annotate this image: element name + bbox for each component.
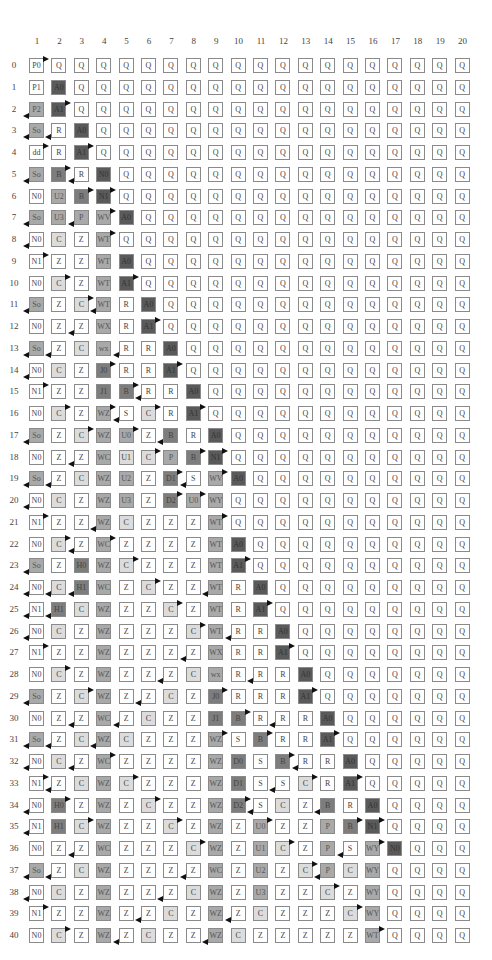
arrow-right-icon: [200, 491, 206, 497]
grid-cell: Q: [320, 515, 335, 530]
arrow-right-icon: [43, 904, 49, 910]
row-header: 26: [4, 626, 24, 636]
grid-cell: Q: [432, 863, 447, 878]
grid-cell: Z: [119, 602, 134, 617]
grid-cell: Q: [387, 580, 402, 595]
grid-cell: WZ: [208, 754, 223, 769]
grid-cell: A1: [51, 102, 66, 117]
grid-cell: Z: [253, 928, 268, 943]
row-header: 18: [4, 452, 24, 462]
arrow-right-icon: [267, 600, 273, 606]
grid-cell: Q: [365, 471, 380, 486]
grid-cell: C: [275, 841, 290, 856]
grid-cell: Q: [410, 341, 425, 356]
grid-cell: Q: [163, 297, 178, 312]
grid-cell: U0: [119, 428, 134, 443]
grid-cell: C: [343, 906, 358, 921]
grid-cell: Z: [119, 624, 134, 639]
arrow-left-icon: [23, 221, 29, 227]
grid-cell: Q: [410, 493, 425, 508]
grid-cell: Q: [387, 58, 402, 73]
grid-cell: WC: [96, 754, 111, 769]
grid-cell: Q: [365, 602, 380, 617]
grid-cell: Z: [186, 645, 201, 660]
grid-cell: C: [141, 798, 156, 813]
grid-cell: Q: [455, 732, 470, 747]
grid-cell: WX: [96, 319, 111, 334]
grid-cell: Q: [96, 145, 111, 160]
grid-cell: Q: [320, 624, 335, 639]
arrow-right-icon: [177, 469, 183, 475]
grid-cell: R: [119, 363, 134, 378]
grid-cell: N0: [29, 276, 44, 291]
grid-cell: Q: [365, 645, 380, 660]
grid-cell: A0: [253, 580, 268, 595]
grid-cell: S: [343, 841, 358, 856]
arrow-right-icon: [133, 556, 139, 562]
grid-cell: Z: [186, 798, 201, 813]
grid-cell: Z: [163, 645, 178, 660]
grid-cell: R: [275, 689, 290, 704]
grid-cell: Q: [231, 276, 246, 291]
row-header: 10: [4, 278, 24, 288]
grid-cell: So: [29, 558, 44, 573]
grid-cell: Q: [298, 471, 313, 486]
grid-cell: Q: [119, 145, 134, 160]
arrow-right-icon: [110, 752, 116, 758]
grid-cell: Z: [141, 558, 156, 573]
grid-cell: Q: [432, 885, 447, 900]
row-header: 40: [4, 930, 24, 940]
arrow-right-icon: [88, 295, 94, 301]
grid-cell: Z: [141, 776, 156, 791]
grid-cell: Q: [455, 819, 470, 834]
grid-cell: Q: [387, 123, 402, 138]
grid-cell: Q: [410, 189, 425, 204]
grid-cell: R: [320, 776, 335, 791]
grid-cell: WZ: [96, 776, 111, 791]
grid-cell: Q: [298, 450, 313, 465]
grid-cell: Q: [253, 319, 268, 334]
grid-cell: Z: [141, 624, 156, 639]
grid-cell: Q: [343, 210, 358, 225]
grid-cell: Q: [343, 450, 358, 465]
arrow-right-icon: [43, 643, 49, 649]
arrow-right-icon: [65, 404, 71, 410]
grid-cell: Q: [253, 471, 268, 486]
grid-cell: WZ: [96, 493, 111, 508]
grid-cell: Q: [275, 602, 290, 617]
grid-cell: C: [141, 406, 156, 421]
grid-cell: Q: [231, 232, 246, 247]
grid-cell: Q: [432, 123, 447, 138]
arrow-right-icon: [88, 687, 94, 693]
grid-cell: R: [51, 123, 66, 138]
grid-cell: Q: [455, 841, 470, 856]
arrow-right-icon: [245, 709, 251, 715]
grid-cell: Q: [410, 210, 425, 225]
grid-cell: Q: [320, 80, 335, 95]
grid-cell: Q: [365, 254, 380, 269]
grid-cell: C: [343, 863, 358, 878]
grid-cell: Q: [231, 341, 246, 356]
grid-cell: Q: [298, 558, 313, 573]
arrow-left-icon: [269, 722, 275, 728]
grid-cell: B: [320, 798, 335, 813]
grid-cell: C: [186, 885, 201, 900]
grid-cell: Q: [298, 189, 313, 204]
grid-cell: Q: [410, 754, 425, 769]
grid-cell: H0: [51, 798, 66, 813]
arrow-left-icon: [202, 939, 208, 945]
grid-cell: Z: [186, 558, 201, 573]
arrow-right-icon: [312, 687, 318, 693]
grid-cell: Z: [74, 798, 89, 813]
grid-cell: Q: [410, 776, 425, 791]
grid-cell: S: [253, 798, 268, 813]
grid-cell: Q: [298, 515, 313, 530]
grid-cell: A1: [320, 732, 335, 747]
grid-cell: R: [298, 754, 313, 769]
grid-cell: WY: [365, 885, 380, 900]
grid-cell: Q: [410, 167, 425, 182]
grid-cell: C: [186, 667, 201, 682]
grid-cell: A1: [163, 363, 178, 378]
arrow-left-icon: [314, 809, 320, 815]
arrow-left-icon: [180, 482, 186, 488]
